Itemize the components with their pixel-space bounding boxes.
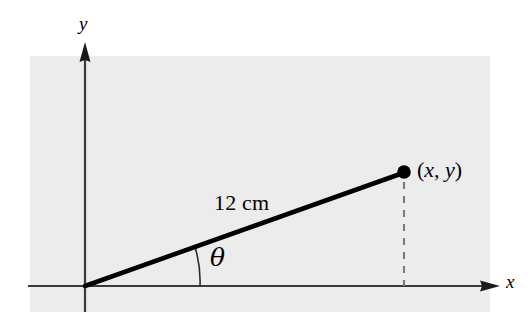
point-x-variable: x	[424, 157, 434, 182]
point-y-variable: y	[445, 157, 455, 182]
y-axis-label: y	[79, 14, 87, 33]
figure-canvas: y x 12 cm θ (x, y)	[0, 0, 532, 330]
point-separator: ,	[434, 157, 445, 182]
y-axis-arrowhead	[80, 42, 91, 62]
terminal-point-dot	[397, 165, 411, 179]
plot-region-background	[30, 56, 490, 312]
angle-theta-label: θ	[210, 245, 225, 270]
x-axis-label: x	[506, 272, 514, 291]
hypotenuse-length-label: 12 cm	[214, 192, 269, 214]
point-coordinates-label: (x, y)	[417, 159, 462, 181]
point-paren-close: )	[455, 157, 462, 182]
